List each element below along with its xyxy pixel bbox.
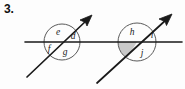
geometry-figure: 3. e d f g h i j [0, 0, 185, 89]
angle-label-e: e [56, 27, 60, 37]
angle-label-d: d [71, 31, 76, 41]
angle-label-j: j [139, 48, 144, 58]
angle-label-g: g [63, 47, 68, 57]
angle-label-i: i [151, 30, 154, 40]
angle-label-h: h [130, 27, 135, 37]
figure-canvas: e d f g h i j [0, 0, 185, 89]
angle-label-f: f [48, 44, 52, 54]
